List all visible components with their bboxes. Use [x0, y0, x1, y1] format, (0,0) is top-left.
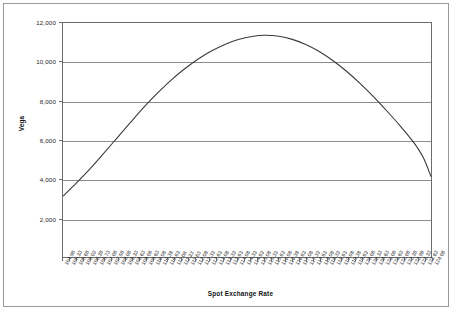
plot-area	[62, 22, 432, 258]
y-axis-title: Vega	[18, 116, 25, 132]
x-tick-mark	[292, 258, 293, 261]
x-tick-mark	[264, 258, 265, 261]
x-tick-mark	[313, 258, 314, 261]
x-axis-title-text: Spot Exchange Rate	[208, 290, 273, 297]
x-tick-mark	[271, 258, 272, 261]
x-tick-mark	[278, 258, 279, 261]
y-tick-label: 10,000	[12, 58, 56, 65]
x-axis-title: Spot Exchange Rate	[0, 290, 453, 297]
x-tick-mark	[320, 258, 321, 261]
y-tick-label: 4,000	[12, 176, 56, 183]
y-tick-label: 12,000	[12, 19, 56, 26]
y-tick-label: 8,000	[12, 97, 56, 104]
x-tick-mark	[299, 258, 300, 261]
chart-container: Vega 2,0004,0006,0008,00010,00012,000 10…	[0, 0, 453, 311]
x-tick-mark	[285, 258, 286, 261]
x-tick-mark	[257, 258, 258, 261]
series-line-vega	[63, 23, 431, 257]
x-tick-mark	[250, 258, 251, 261]
y-tick-label: 2,000	[12, 215, 56, 222]
y-tick-label: 6,000	[12, 137, 56, 144]
x-tick-mark	[306, 258, 307, 261]
